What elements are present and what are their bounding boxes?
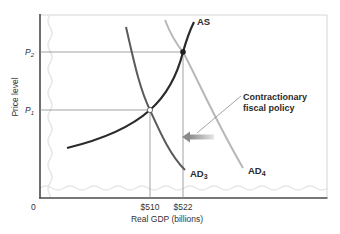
annotation-leader-line bbox=[197, 96, 241, 133]
x-tick-522: $522 bbox=[174, 202, 193, 212]
origin-label: 0 bbox=[31, 202, 36, 212]
annotation-line-2: fiscal policy bbox=[243, 103, 295, 113]
ad3-label: AD3 bbox=[190, 168, 208, 180]
ad4-curve bbox=[165, 20, 243, 168]
axis-break-horizontal bbox=[40, 186, 328, 190]
ad3-curve bbox=[126, 27, 185, 170]
equilibrium-point-p1 bbox=[147, 107, 152, 112]
y-axis-title: Price level bbox=[10, 77, 20, 116]
as-label: AS bbox=[197, 16, 210, 27]
chart-canvas: AS AD3 AD4 Contractionary fiscal policy … bbox=[0, 0, 340, 234]
shift-arrow-body bbox=[189, 135, 214, 140]
annotation-line-1: Contractionary bbox=[243, 92, 307, 102]
y-tick-p2: P2 bbox=[25, 47, 35, 58]
axis-break-vertical bbox=[48, 15, 52, 198]
ad4-label: AD4 bbox=[248, 165, 266, 177]
y-tick-p1: P1 bbox=[25, 105, 34, 116]
x-tick-510: $510 bbox=[141, 202, 160, 212]
equilibrium-point-p2 bbox=[180, 49, 186, 55]
x-axis-title: Real GDP (billions) bbox=[131, 214, 203, 224]
